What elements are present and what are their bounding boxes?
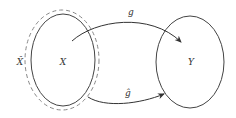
g-label: g [128, 7, 134, 17]
x-label: X [59, 57, 67, 67]
x-hat-label: X̂ [16, 56, 24, 67]
mapping-diagram: X̂ X Y g ĝ [0, 0, 236, 118]
g-hat-label: ĝ [125, 88, 131, 98]
y-label: Y [188, 57, 195, 67]
